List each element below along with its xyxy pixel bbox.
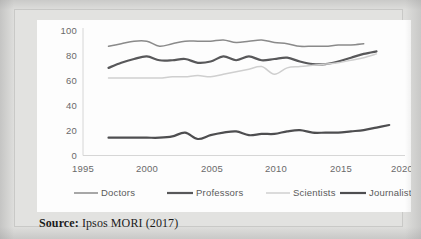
- series-line-journalists: [109, 125, 390, 139]
- y-tick-label: 40: [66, 100, 77, 111]
- source-label: Source:: [39, 216, 79, 230]
- figure-container: 100 80 60 40 20 0 1995 2000 2005 2010 20…: [14, 9, 403, 227]
- series-line-doctors: [109, 40, 364, 47]
- source-text: Ipsos MORI (2017): [79, 216, 178, 230]
- y-tick-label: 80: [66, 50, 77, 61]
- legend-label-journalists: Journalists: [369, 187, 411, 198]
- x-tick-label: 2020: [391, 163, 411, 174]
- x-tick-label: 2000: [136, 163, 158, 174]
- chart-panel: 100 80 60 40 20 0 1995 2000 2005 2010 20…: [37, 20, 411, 212]
- y-axis-tick-labels: 100 80 60 40 20 0: [61, 25, 77, 161]
- y-tick-label: 0: [72, 150, 77, 161]
- x-tick-label: 1995: [72, 163, 94, 174]
- chart-legend: DoctorsProfessorsScientistsJournalists: [74, 187, 411, 198]
- legend-label-scientists: Scientists: [293, 187, 336, 198]
- legend-label-doctors: Doctors: [101, 187, 135, 198]
- series-line-professors: [109, 51, 377, 68]
- y-tick-label: 20: [66, 125, 77, 136]
- line-chart-svg: 100 80 60 40 20 0 1995 2000 2005 2010 20…: [37, 20, 411, 212]
- legend-label-professors: Professors: [196, 187, 243, 198]
- source-caption: Source: Ipsos MORI (2017): [39, 216, 178, 231]
- series-paths-group: [109, 40, 390, 139]
- x-tick-label: 2015: [330, 163, 352, 174]
- y-tick-label: 60: [66, 75, 77, 86]
- x-tick-label: 2005: [201, 163, 223, 174]
- y-tick-label: 100: [61, 25, 77, 36]
- x-tick-label: 2010: [265, 163, 287, 174]
- x-axis-tick-labels: 1995 2000 2005 2010 2015 2020: [72, 163, 411, 174]
